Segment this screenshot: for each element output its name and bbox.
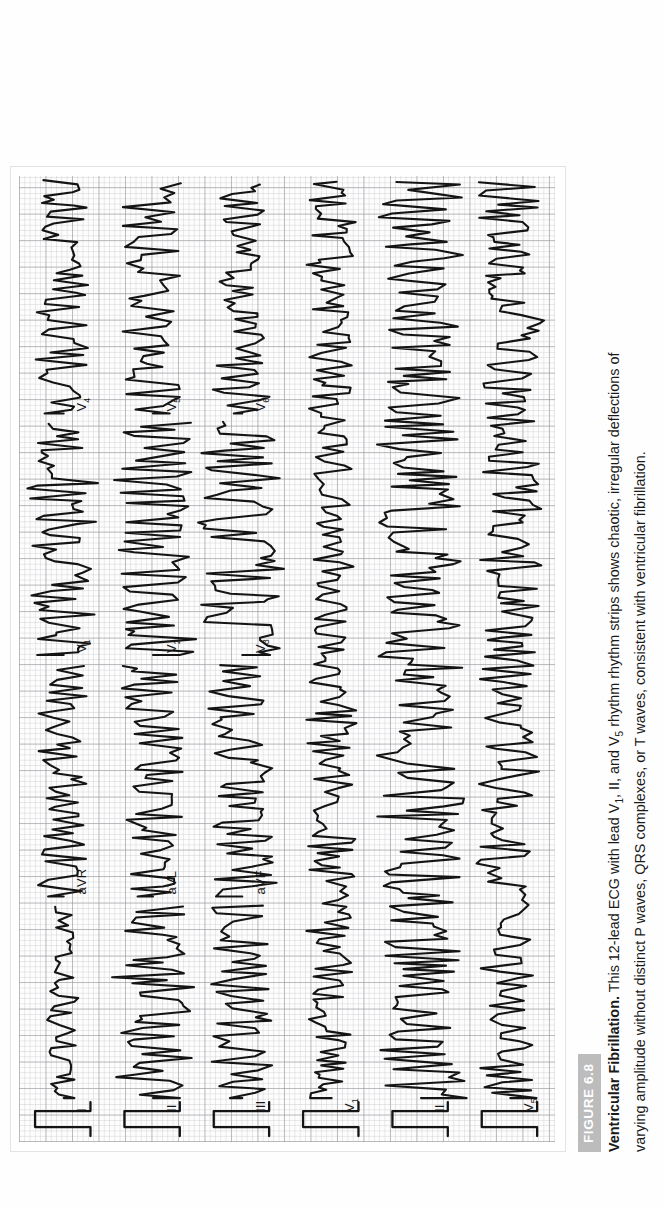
lead-label-text: V (253, 403, 268, 412)
lead-label-text: V (164, 403, 179, 412)
caption-text-a: This 12-lead ECG with lead V (606, 804, 622, 997)
caption-title: Ventricular Fibrillation. (606, 996, 622, 1152)
figure-page: IaVRV1V4IIaVLV2V5IIIaVFV3V6V1IIV5 FIGURE… (0, 0, 663, 1209)
caption-text-c: rhythm rhythm strips shows chaotic, irre… (606, 353, 622, 731)
lead-label-subscript: 2 (171, 639, 181, 644)
lead-label-iii: III (253, 1101, 268, 1112)
ecg-figure-card: IaVRV1V4IIaVLV2V5IIIaVFV3V6V1IIV5 (10, 166, 566, 1152)
lead-label-i: I (74, 1108, 89, 1112)
lead-label-text: aVF (253, 870, 268, 894)
rhythm-strip-label-ii: II (432, 1104, 447, 1112)
lead-label-text: V (521, 1103, 536, 1112)
lead-label-subscript: 3 (261, 639, 271, 644)
lead-label-v4: V4 (74, 397, 92, 411)
ecg-trace-canvas (19, 176, 555, 1142)
lead-label-subscript: 5 (529, 1098, 539, 1103)
lead-label-subscript: 6 (261, 397, 271, 402)
caption-text-b: , II, and V (606, 736, 622, 798)
lead-label-text: II (432, 1104, 447, 1112)
lead-label-avf: aVF (253, 870, 268, 894)
lead-label-v2: V2 (164, 639, 182, 653)
lead-label-subscript: 1 (350, 1098, 360, 1103)
caption-line-1: Ventricular Fibrillation. This 12-lead E… (604, 152, 630, 1152)
lead-label-text: aVR (74, 869, 89, 895)
lead-label-subscript: 5 (171, 397, 181, 402)
lead-label-text: II (164, 1104, 179, 1112)
lead-label-text: V (253, 644, 268, 653)
lead-label-v1: V1 (74, 639, 92, 653)
ecg-grid-paper: IaVRV1V4IIaVLV2V5IIIaVFV3V6V1IIV5 (19, 176, 555, 1142)
caption-line-2: varying amplitude without distinct P wav… (630, 152, 652, 1152)
caption-sub-v1: 1 (614, 798, 625, 804)
lead-label-text: V (74, 644, 89, 653)
caption-sub-v5: 5 (614, 731, 625, 737)
lead-label-v3: V3 (253, 639, 271, 653)
lead-label-text: aVL (164, 871, 179, 895)
lead-label-avr: aVR (74, 869, 89, 895)
lead-label-text: V (164, 644, 179, 653)
figure-caption: Ventricular Fibrillation. This 12-lead E… (604, 152, 652, 1152)
lead-label-v5: V5 (164, 397, 182, 411)
figure-number-badge: FIGURE 6.8 (578, 1054, 601, 1152)
lead-label-subscript: 4 (82, 397, 92, 402)
lead-label-ii: II (164, 1104, 179, 1112)
rhythm-strip-label-v5: V5 (521, 1098, 539, 1112)
rhythm-strip-label-v1: V1 (342, 1098, 360, 1112)
lead-label-v6: V6 (253, 397, 271, 411)
lead-label-text: III (253, 1101, 268, 1112)
lead-label-text: I (74, 1108, 89, 1112)
lead-label-text: V (342, 1103, 357, 1112)
lead-label-avl: aVL (164, 871, 179, 895)
lead-label-text: V (74, 403, 89, 412)
rotated-figure-wrapper: IaVRV1V4IIaVLV2V5IIIaVFV3V6V1IIV5 FIGURE… (0, 0, 663, 1209)
lead-label-subscript: 1 (82, 639, 92, 644)
